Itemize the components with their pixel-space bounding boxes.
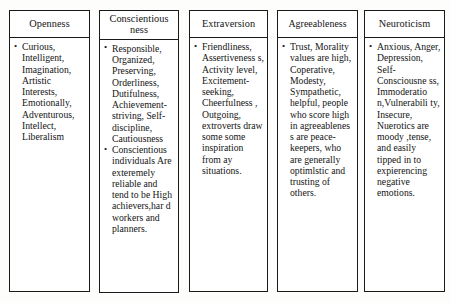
big-five-traits-table: Openness Curious, Intelligent, Imaginati… [0, 0, 451, 303]
bullet-list: Anxious, Anger, Depression, Self-Conscio… [369, 41, 441, 199]
trait-column-openness: Openness Curious, Intelligent, Imaginati… [9, 10, 90, 292]
trait-body-extraversion: Friendliness, Assertiveness s, Activity … [190, 38, 267, 291]
trait-header-conscientiousness: Conscientious ness [100, 11, 178, 40]
trait-body-neuroticism: Anxious, Anger, Depression, Self-Conscio… [365, 38, 444, 291]
trait-column-neuroticism: Neuroticism Anxious, Anger, Depression, … [364, 10, 445, 292]
bullet-list: Curious, Intelligent, Imagination, Artis… [14, 41, 86, 142]
list-item: Anxious, Anger, Depression, Self-Conscio… [369, 41, 441, 199]
trait-body-openness: Curious, Intelligent, Imagination, Artis… [10, 38, 89, 291]
trait-column-extraversion: Extraversion Friendliness, Assertiveness… [189, 10, 268, 292]
trait-header-agreeableness: Agreeableness [278, 11, 357, 38]
bullet-list: Friendliness, Assertiveness s, Activity … [194, 41, 264, 176]
trait-column-conscientiousness: Conscientious ness Responsible, Organize… [99, 10, 179, 293]
trait-header-neuroticism: Neuroticism [365, 11, 444, 38]
trait-column-agreeableness: Agreeableness Trust, Morality values are… [277, 10, 358, 292]
list-item: Trust, Morality values are high, Coperat… [282, 41, 354, 199]
bullet-list: Responsible, Organized, Preserving, Orde… [104, 43, 175, 234]
list-item: Friendliness, Assertiveness s, Activity … [194, 41, 264, 176]
trait-body-agreeableness: Trust, Morality values are high, Coperat… [278, 38, 357, 291]
list-item: Curious, Intelligent, Imagination, Artis… [14, 41, 86, 142]
list-item: Responsible, Organized, Preserving, Orde… [104, 43, 175, 144]
list-item: Conscientious individuals Are exteremely… [104, 144, 175, 234]
trait-body-conscientiousness: Responsible, Organized, Preserving, Orde… [100, 40, 178, 292]
bullet-list: Trust, Morality values are high, Coperat… [282, 41, 354, 199]
trait-header-extraversion: Extraversion [190, 11, 267, 38]
trait-header-openness: Openness [10, 11, 89, 38]
